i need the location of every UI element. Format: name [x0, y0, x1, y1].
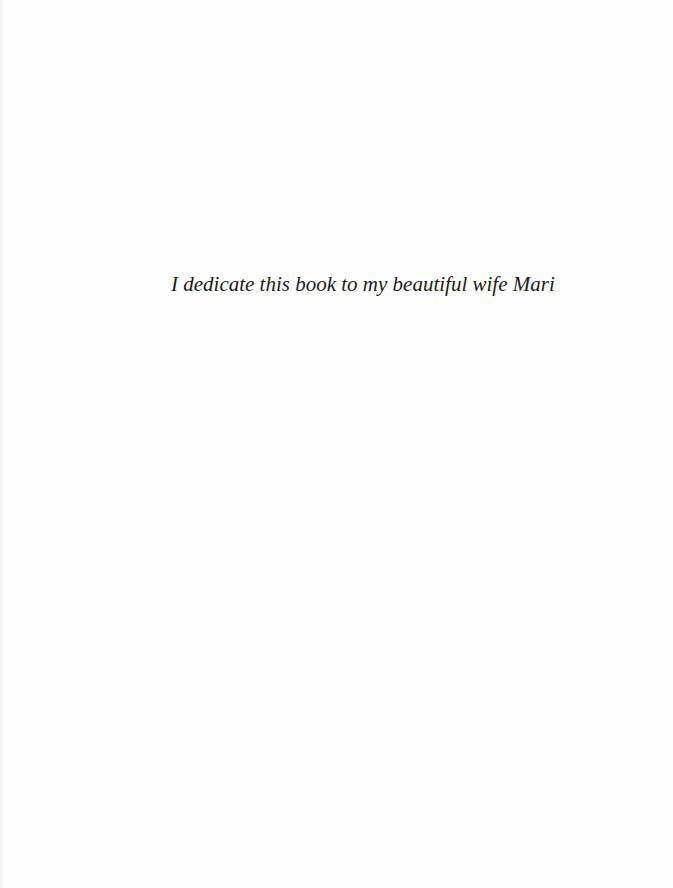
- book-page: I dedicate this book to my beautiful wif…: [0, 0, 673, 888]
- page-edge-shadow: [0, 0, 6, 888]
- dedication-text: I dedicate this book to my beautiful wif…: [171, 272, 555, 297]
